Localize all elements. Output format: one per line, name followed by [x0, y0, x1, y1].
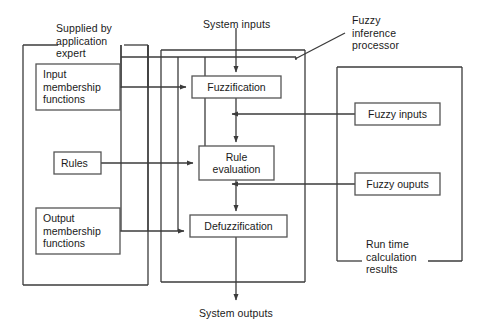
fuzzy-inference-processor-leader-line: [295, 33, 345, 59]
group-label-run-time-calculation-results: Run time calculation results: [366, 238, 417, 276]
box-label-rules: Rules: [54, 152, 101, 174]
box-label-defuzzification: Defuzzification: [190, 215, 287, 237]
box-label-rule-evaluation: Rule evaluation: [199, 146, 274, 180]
box-label-fuzzy-ouputs: Fuzzy ouputs: [355, 173, 440, 195]
flow-label-system-outputs: System outputs: [199, 307, 273, 320]
connector-inner-vertical-rails: [121, 45, 205, 231]
group-label-supplied-by-application-expert: Supplied by application expert: [56, 22, 112, 60]
connector-upper-bus: [121, 57, 296, 60]
box-label-output-membership-functions: Output membership functions: [36, 208, 120, 254]
box-label-fuzzification: Fuzzification: [192, 76, 281, 98]
connector-top-rail-to-fuzzification: [121, 45, 148, 88]
group-run-time-calculation-results-border: [337, 67, 462, 261]
box-label-fuzzy-inputs: Fuzzy inputs: [355, 103, 440, 125]
flow-label-system-inputs: System inputs: [203, 18, 270, 31]
diagram-canvas: Supplied by application expert Fuzzy inf…: [0, 0, 485, 333]
box-label-input-membership-functions: Input membership functions: [36, 64, 120, 110]
group-label-fuzzy-inference-processor: Fuzzy inference processor: [352, 14, 399, 52]
